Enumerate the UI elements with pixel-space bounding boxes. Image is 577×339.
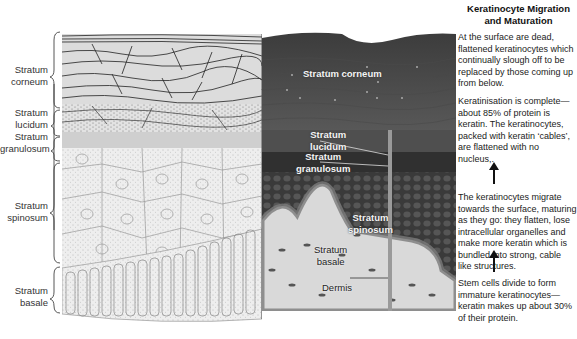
label-line: basale (0, 297, 48, 309)
label-stratum-corneum: Stratum corneum (0, 64, 48, 88)
brace-icons (48, 30, 62, 315)
photo-label-lucidum: Stratum lucidum (310, 129, 346, 153)
label-line: Stratum (348, 212, 393, 224)
label-line: corneum (0, 76, 48, 88)
label-line: granulosum (0, 143, 48, 155)
label-line: Stratum (0, 131, 48, 143)
label-line: spinosum (0, 212, 48, 224)
photo-label-dermis: Dermis (322, 282, 352, 294)
stem-cell-description: Stem cells divide to form immature kerat… (458, 278, 577, 324)
epidermis-line-drawing (62, 34, 262, 324)
sidebar-title: Keratinocyte Migration and Maturation (460, 3, 577, 27)
photo-label-basale: Stratum basale (314, 244, 347, 268)
up-arrow-icon (493, 256, 495, 272)
label-line: granulosum (296, 163, 350, 175)
label-line: Stratum (314, 244, 347, 256)
label-stratum-granulosum: Stratum granulosum (0, 131, 48, 155)
label-stratum-lucidum: Stratum lucidum (0, 107, 48, 131)
label-line: Stratum (310, 129, 346, 141)
photo-label-corneum: Stratum corneum (303, 68, 382, 80)
up-arrow-icon (493, 168, 495, 184)
label-stratum-basale: Stratum basale (0, 285, 48, 309)
label-line: Stratum (0, 285, 48, 297)
label-line: spinosum (348, 224, 393, 236)
label-line: basale (314, 256, 347, 268)
label-line: Stratum (296, 151, 350, 163)
label-line: Stratum (0, 107, 48, 119)
label-stratum-spinosum: Stratum spinosum (0, 200, 48, 224)
label-line: Stratum (0, 64, 48, 76)
surface-description: At the surface are dead, flattened kerat… (458, 32, 577, 90)
photo-label-granulosum: Stratum granulosum (296, 151, 350, 175)
migration-description: The keratinocytes migrate towards the su… (458, 192, 577, 273)
photo-label-spinosum: Stratum spinosum (348, 212, 393, 236)
keratinisation-description: Keratinisation is complete—about 85% of … (458, 96, 577, 165)
label-line: Stratum (0, 200, 48, 212)
label-line: lucidum (0, 119, 48, 131)
